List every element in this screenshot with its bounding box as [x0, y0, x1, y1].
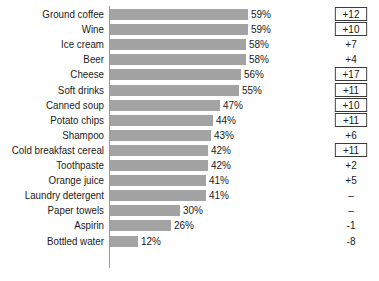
chart-row: Canned soup47%+10	[0, 98, 379, 113]
category-label: Cold breakfast cereal	[7, 143, 104, 158]
bar	[110, 24, 248, 35]
change-value-boxed: +11	[322, 113, 379, 128]
category-label: Paper towels	[7, 203, 104, 218]
category-label: Cheese	[7, 67, 104, 82]
bar-value-label: 30%	[183, 203, 203, 218]
change-value-boxed: +17	[322, 67, 379, 82]
bar-track	[110, 128, 211, 143]
bar-track	[110, 173, 206, 188]
chart-row: Wine59%+10	[0, 22, 379, 37]
bar-value-label: 43%	[214, 128, 234, 143]
bar-track	[110, 218, 171, 233]
chart-row: Toothpaste42%+2	[0, 158, 379, 173]
bar-track	[110, 158, 208, 173]
change-value: +4	[322, 52, 379, 67]
bar-track	[110, 143, 208, 158]
bar-value-label: 56%	[244, 67, 264, 82]
bar-track	[110, 7, 248, 22]
bar	[110, 115, 213, 126]
bar-value-label: 26%	[174, 218, 194, 233]
chart-row: Ground coffee59%+12	[0, 7, 379, 22]
change-value-boxed: +10	[322, 22, 379, 37]
bar	[110, 85, 239, 96]
chart-row: Soft drinks55%+11	[0, 83, 379, 98]
bar-value-label: 12%	[141, 234, 161, 249]
category-label: Ground coffee	[7, 7, 104, 22]
chart-row: Bottled water12%-8	[0, 234, 379, 249]
bar-value-label: 59%	[251, 22, 271, 37]
change-value-text: +7	[339, 38, 364, 50]
category-label: Toothpaste	[7, 158, 104, 173]
chart-row: Cold breakfast cereal42%+11	[0, 143, 379, 158]
bar-track	[110, 83, 239, 98]
change-value-text: –	[339, 189, 364, 201]
category-label: Orange juice	[7, 173, 104, 188]
change-value: +6	[322, 128, 379, 143]
chart-row: Potato chips44%+11	[0, 113, 379, 128]
bar	[110, 39, 246, 50]
change-value-boxed: +10	[322, 98, 379, 113]
change-value-text: +10	[335, 22, 367, 36]
category-label: Shampoo	[7, 128, 104, 143]
change-value: +7	[322, 37, 379, 52]
bar	[110, 205, 180, 216]
bar-value-label: 55%	[242, 83, 262, 98]
bar-value-label: 44%	[216, 113, 236, 128]
chart-row: Orange juice41%+5	[0, 173, 379, 188]
bar-track	[110, 67, 241, 82]
change-value-text: +2	[339, 159, 364, 171]
change-value: –	[322, 203, 379, 218]
bar-track	[110, 234, 138, 249]
bar	[110, 220, 171, 231]
bar-value-label: 42%	[211, 158, 231, 173]
change-value-text: –	[339, 204, 364, 216]
bar-value-label: 58%	[249, 52, 269, 67]
bar	[110, 175, 206, 186]
change-value: -1	[322, 218, 379, 233]
change-value-text: +10	[335, 98, 367, 112]
chart-row: Aspirin26%-1	[0, 218, 379, 233]
category-label: Beer	[7, 52, 104, 67]
chart-row: Cheese56%+17	[0, 67, 379, 82]
bar-track	[110, 52, 246, 67]
chart-row: Ice cream58%+7	[0, 37, 379, 52]
change-value-boxed: +12	[322, 7, 379, 22]
bar-value-label: 41%	[209, 173, 229, 188]
category-label: Wine	[7, 22, 104, 37]
category-label: Laundry detergent	[7, 188, 104, 203]
category-label: Canned soup	[7, 98, 104, 113]
change-value-text: +5	[339, 174, 364, 186]
bar-track	[110, 98, 220, 113]
bar	[110, 160, 208, 171]
change-value-text: +6	[339, 129, 364, 141]
bar-chart: Ground coffee59%+12Wine59%+10Ice cream58…	[0, 0, 379, 281]
change-value-text: +11	[335, 143, 367, 157]
change-value-text: -8	[339, 235, 364, 247]
bar-track	[110, 22, 248, 37]
change-value-text: +4	[339, 53, 364, 65]
category-label: Potato chips	[7, 113, 104, 128]
bar	[110, 145, 208, 156]
bar	[110, 190, 206, 201]
change-value: -8	[322, 234, 379, 249]
change-value: +5	[322, 173, 379, 188]
chart-row: Shampoo43%+6	[0, 128, 379, 143]
bar	[110, 236, 138, 247]
bar	[110, 54, 246, 65]
chart-row: Laundry detergent41%–	[0, 188, 379, 203]
bar	[110, 69, 241, 80]
bar-track	[110, 188, 206, 203]
category-label: Ice cream	[7, 37, 104, 52]
chart-row: Beer58%+4	[0, 52, 379, 67]
category-label: Soft drinks	[7, 83, 104, 98]
bar-track	[110, 113, 213, 128]
change-value-text: +11	[335, 83, 367, 97]
category-label: Aspirin	[7, 218, 104, 233]
chart-row: Paper towels30%–	[0, 203, 379, 218]
bar-track	[110, 203, 180, 218]
bar-value-label: 42%	[211, 143, 231, 158]
bar-value-label: 41%	[209, 188, 229, 203]
bar-track	[110, 37, 246, 52]
change-value-boxed: +11	[322, 83, 379, 98]
change-value-boxed: +11	[322, 143, 379, 158]
